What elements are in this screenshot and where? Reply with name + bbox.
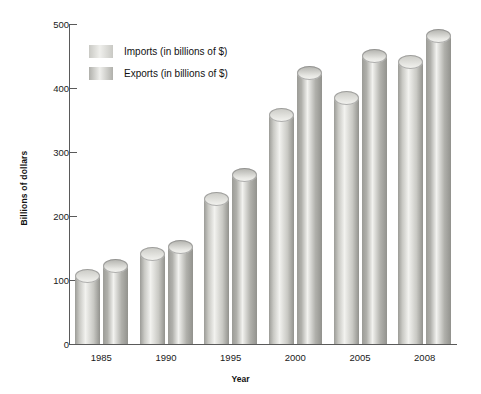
- bar-cap: [426, 29, 451, 43]
- bar-body: [204, 199, 229, 344]
- bar-body: [103, 266, 128, 344]
- bar-cap-outline: [297, 66, 322, 80]
- x-axis-label-1990: 1990: [155, 352, 176, 363]
- y-axis-tick: [69, 344, 77, 345]
- bar-body: [297, 73, 322, 344]
- bar-cap-outline: [426, 29, 451, 43]
- y-axis-tick: [69, 152, 77, 153]
- bar-body: [362, 56, 387, 344]
- bar-cap: [297, 66, 322, 80]
- bar-body: [232, 175, 257, 344]
- x-axis-label-1985: 1985: [91, 352, 112, 363]
- bar-cap-outline: [334, 91, 359, 105]
- bar-cap: [140, 247, 165, 261]
- y-axis-tick: [69, 88, 77, 89]
- bar-1990-exports: [168, 240, 193, 344]
- legend-swatch: [89, 67, 113, 80]
- x-axis-title: Year: [0, 374, 481, 384]
- bar-cap: [204, 192, 229, 206]
- y-axis-tick-label: 100: [43, 275, 69, 286]
- bar-cap: [334, 91, 359, 105]
- bar-cap: [362, 49, 387, 63]
- bar-2005-imports: [334, 91, 359, 344]
- legend-swatch: [89, 45, 113, 58]
- bar-cap-outline: [103, 259, 128, 273]
- x-axis-label-2000: 2000: [285, 352, 306, 363]
- bar-1990-imports: [140, 247, 165, 344]
- y-axis-tick-label: 200: [43, 211, 69, 222]
- x-axis-line: [69, 344, 457, 345]
- bar-1985-imports: [75, 269, 100, 344]
- bar-cap: [269, 108, 294, 122]
- bar-cap: [103, 259, 128, 273]
- y-axis-line: [69, 24, 70, 345]
- bar-body: [426, 36, 451, 344]
- bar-cap-outline: [398, 55, 423, 69]
- chart-legend: Imports (in billions of $)Exports (in bi…: [89, 42, 228, 86]
- bar-2008-imports: [398, 55, 423, 344]
- bar-cap-outline: [269, 108, 294, 122]
- y-axis-title: Billions of dollars: [19, 128, 29, 248]
- bar-2000-exports: [297, 66, 322, 344]
- y-axis-tick: [69, 24, 77, 25]
- bar-body: [398, 62, 423, 344]
- bar-series-layer: [0, 0, 481, 394]
- y-axis-tick-label: 400: [43, 83, 69, 94]
- bar-cap-outline: [232, 168, 257, 182]
- y-axis-tick-label: 0: [43, 339, 69, 350]
- x-axis-label-2005: 2005: [349, 352, 370, 363]
- legend-item-exports: Exports (in billions of $): [89, 64, 228, 82]
- x-axis-label-1995: 1995: [220, 352, 241, 363]
- y-axis-tick: [69, 280, 77, 281]
- bar-cap: [75, 269, 100, 283]
- bar-cap: [398, 55, 423, 69]
- y-axis-tick-label: 500: [43, 19, 69, 30]
- legend-label: Imports (in billions of $): [124, 46, 227, 57]
- bar-2000-imports: [269, 108, 294, 344]
- bar-1995-imports: [204, 192, 229, 344]
- bar-body: [75, 276, 100, 344]
- bar-2005-exports: [362, 49, 387, 344]
- bar-body: [168, 247, 193, 344]
- bar-cap-outline: [362, 49, 387, 63]
- x-axis-label-2008: 2008: [414, 352, 435, 363]
- y-axis-tick-label: 300: [43, 147, 69, 158]
- bar-chart: Billions of dollars 0100200300400500 198…: [0, 0, 481, 394]
- y-axis-tick: [69, 216, 77, 217]
- bar-cap-outline: [204, 192, 229, 206]
- bar-body: [269, 115, 294, 344]
- bar-1995-exports: [232, 168, 257, 344]
- bar-cap: [168, 240, 193, 254]
- bar-cap-outline: [75, 269, 100, 283]
- legend-item-imports: Imports (in billions of $): [89, 42, 228, 60]
- bar-1985-exports: [103, 259, 128, 344]
- bar-cap-outline: [168, 240, 193, 254]
- bar-cap: [232, 168, 257, 182]
- legend-label: Exports (in billions of $): [124, 68, 228, 79]
- bar-cap-outline: [140, 247, 165, 261]
- bar-body: [140, 254, 165, 344]
- bar-2008-exports: [426, 29, 451, 344]
- bar-body: [334, 98, 359, 344]
